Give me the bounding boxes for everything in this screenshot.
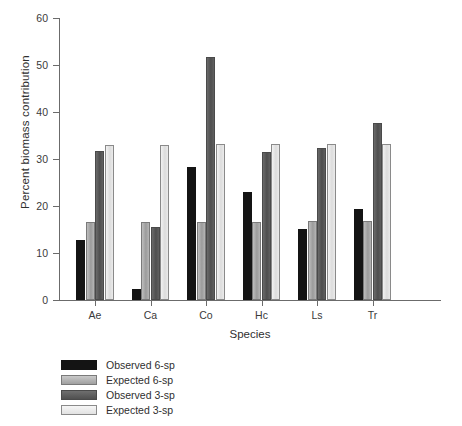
bar-Ae-series2 — [95, 151, 104, 300]
x-tick-label-Ca: Ca — [121, 309, 181, 321]
x-tick-label-Hc: Hc — [232, 309, 292, 321]
bar-Tr-series1 — [363, 221, 372, 300]
x-tick-label-Co: Co — [176, 309, 236, 321]
legend-swatch-icon-3 — [61, 405, 97, 415]
x-tick-Ls — [317, 301, 318, 306]
bar-Ca-series3 — [160, 145, 169, 300]
legend-label-1: Expected 6-sp — [106, 374, 173, 386]
legend-swatch-icon-2 — [61, 390, 97, 400]
bar-Ca-series1 — [141, 222, 150, 300]
x-tick-Hc — [262, 301, 263, 306]
bar-Co-series0 — [187, 167, 196, 300]
bar-Co-series1 — [197, 222, 206, 300]
x-tick-label-Ls: Ls — [287, 309, 347, 321]
bar-Hc-series3 — [271, 144, 280, 300]
bar-Hc-series0 — [243, 192, 252, 300]
bar-Ls-series1 — [308, 221, 317, 300]
bar-Ae-series1 — [86, 222, 95, 300]
bar-Ca-series2 — [151, 227, 160, 300]
legend-item-1: Expected 6-sp — [61, 373, 175, 387]
y-tick-label-60: 60 — [14, 12, 48, 24]
y-tick-label-0: 0 — [14, 294, 48, 306]
legend-item-3: Expected 3-sp — [61, 403, 175, 417]
plot-area — [59, 18, 440, 300]
bar-Ls-series2 — [317, 148, 326, 300]
bar-Tr-series2 — [373, 123, 382, 300]
bar-Ca-series0 — [132, 289, 141, 300]
y-tick-label-30: 30 — [14, 153, 48, 165]
legend-swatch-icon-1 — [61, 375, 97, 385]
y-tick-0 — [53, 300, 59, 301]
x-tick-Ca — [151, 301, 152, 306]
x-tick-label-Tr: Tr — [343, 309, 403, 321]
x-tick-Tr — [373, 301, 374, 306]
bar-Co-series2 — [206, 57, 215, 300]
legend-swatch-icon-0 — [61, 360, 97, 370]
legend-item-0: Observed 6-sp — [61, 358, 175, 372]
bar-Ls-series3 — [327, 144, 336, 300]
bar-Ae-series3 — [105, 145, 114, 300]
x-tick-Co — [206, 301, 207, 306]
x-tick-label-Ae: Ae — [65, 309, 125, 321]
legend-label-0: Observed 6-sp — [106, 359, 175, 371]
x-tick-Ae — [95, 301, 96, 306]
legend-item-2: Observed 3-sp — [61, 388, 175, 402]
y-axis-title: Percent biomass contribution — [14, 0, 36, 282]
x-axis-line — [59, 300, 441, 301]
y-tick-label-20: 20 — [14, 200, 48, 212]
y-tick-label-50: 50 — [14, 59, 48, 71]
bar-Ae-series0 — [76, 240, 85, 300]
y-tick-label-40: 40 — [14, 106, 48, 118]
x-axis-title: Species — [59, 328, 441, 340]
y-tick-label-10: 10 — [14, 247, 48, 259]
bar-Tr-series3 — [382, 144, 391, 300]
legend-label-2: Observed 3-sp — [106, 389, 175, 401]
chart-legend: Observed 6-spExpected 6-spObserved 3-spE… — [61, 358, 175, 418]
bar-chart-figure: Percent biomass contribution 01020304050… — [0, 0, 462, 426]
bar-Hc-series1 — [252, 222, 261, 300]
bar-Ls-series0 — [298, 229, 307, 300]
bar-Co-series3 — [216, 144, 225, 300]
bar-Tr-series0 — [354, 209, 363, 300]
legend-label-3: Expected 3-sp — [106, 404, 173, 416]
bar-Hc-series2 — [262, 152, 271, 300]
